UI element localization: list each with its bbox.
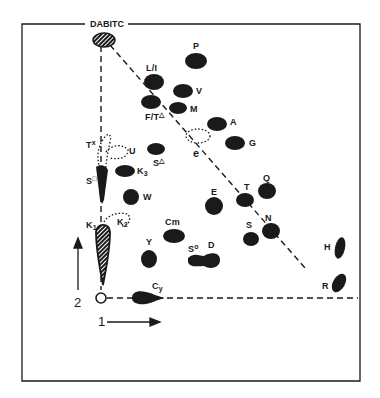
plate-frame	[22, 24, 360, 381]
spot-U	[106, 146, 128, 159]
label-Cm: Cm	[165, 218, 180, 227]
spot-R	[329, 271, 349, 294]
label-A: A	[230, 118, 237, 127]
label-Cy: Cy	[152, 282, 163, 292]
spot-Y	[141, 250, 157, 268]
spot-Cm	[163, 229, 185, 243]
spot-Cy	[132, 291, 165, 304]
spot-Q	[258, 183, 276, 199]
spot-dabitc	[93, 33, 115, 47]
spot-V	[173, 84, 193, 98]
spot-LI	[144, 74, 164, 90]
spot-H	[333, 236, 347, 260]
label-H: H	[324, 243, 331, 252]
label-M: M	[190, 105, 198, 114]
spot-S	[243, 232, 259, 246]
label-LI: L/I	[146, 64, 157, 73]
origin-marker	[96, 293, 106, 303]
label-W: W	[143, 193, 152, 202]
spots	[96, 53, 349, 304]
spot-FT	[141, 95, 161, 109]
label-Q: Q	[263, 174, 270, 183]
spot-N	[262, 223, 280, 239]
label-N: N	[265, 214, 272, 223]
chromatogram-svg	[0, 0, 380, 398]
spot-So-D	[188, 253, 220, 268]
spot-K1	[96, 225, 110, 285]
label-R: R	[322, 282, 329, 291]
label-Y: Y	[146, 238, 152, 247]
spot-M	[169, 102, 187, 114]
label-K3: K3	[137, 167, 148, 177]
label-E: E	[211, 188, 217, 197]
label-e: e	[193, 148, 199, 159]
label-S-delta: S△	[153, 157, 164, 168]
label-K2: K2	[117, 218, 128, 228]
spot-S-square	[96, 165, 108, 204]
label-U: U	[129, 147, 136, 156]
spot-K3	[115, 165, 135, 177]
axis-2-label: 2	[74, 296, 81, 309]
label-P: P	[193, 42, 199, 51]
label-dabitc: DABITC	[88, 20, 126, 29]
spot-P	[185, 53, 207, 69]
label-D: D	[208, 241, 215, 250]
spot-T	[236, 193, 254, 207]
label-So: So	[188, 243, 199, 254]
label-T: T	[244, 183, 250, 192]
spot-S-delta	[147, 143, 165, 155]
label-S: S	[246, 221, 252, 230]
spot-Tx	[98, 135, 111, 168]
spot-E	[205, 197, 223, 215]
chromatogram-diagram: DABITC P L/I V F/T△ M A G e Tx U S△ K3 S…	[0, 0, 380, 398]
spot-G	[225, 136, 245, 150]
label-G: G	[249, 139, 256, 148]
axis-1-label: 1	[98, 315, 105, 328]
label-Tx: Tx	[86, 139, 96, 150]
spot-A	[207, 117, 227, 131]
label-K1: K1	[86, 221, 97, 231]
label-FT: F/T△	[145, 111, 164, 122]
spot-W	[123, 189, 139, 205]
label-S-square: S□	[86, 175, 97, 186]
label-V: V	[196, 87, 202, 96]
